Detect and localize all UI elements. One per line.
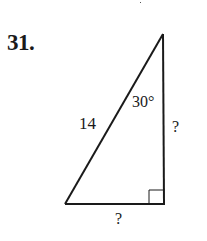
- vertical-leg: [163, 34, 164, 204]
- vertical-leg-label: ?: [172, 118, 179, 135]
- horizontal-leg-label: ?: [115, 210, 122, 227]
- angle-label: 30°: [132, 93, 154, 110]
- right-angle-marker: [149, 190, 164, 204]
- hypotenuse-label: 14: [79, 114, 97, 133]
- right-triangle-figure: 14 30° ? ?: [0, 0, 207, 241]
